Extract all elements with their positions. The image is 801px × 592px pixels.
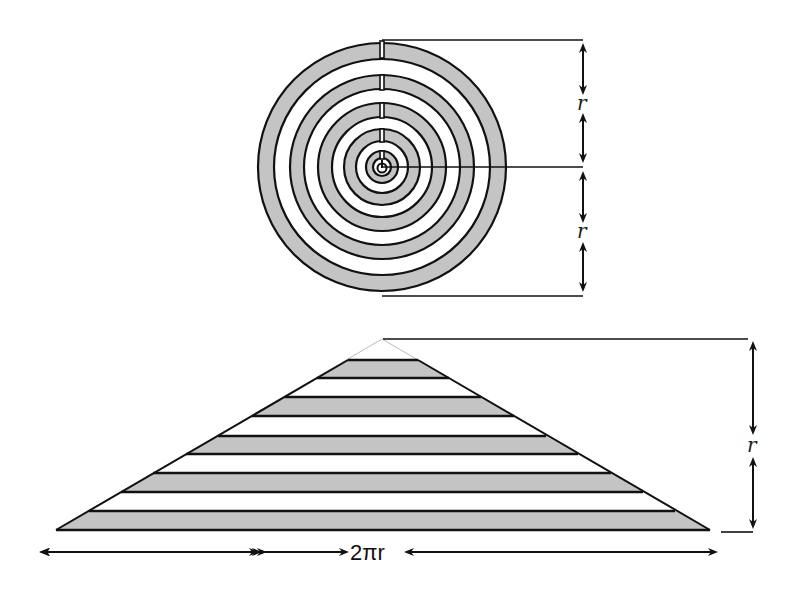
- upper-radius-label: r: [577, 91, 588, 115]
- triangle-base-label: 2πr: [350, 540, 385, 565]
- triangle-height-label: r: [747, 433, 758, 457]
- lower-radius-label: r: [577, 219, 588, 243]
- unrolled-triangle: [56, 339, 710, 530]
- circle-area-diagram: r r: [0, 0, 801, 592]
